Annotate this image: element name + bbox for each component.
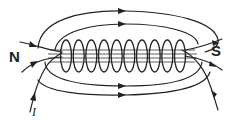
arrow-top-inner (118, 21, 126, 27)
coil-turn (111, 40, 122, 72)
coil-turn (99, 40, 110, 72)
north-pole-label: N (9, 48, 20, 65)
coil-turn (175, 40, 186, 72)
current-label: I (31, 105, 37, 119)
arrow-left-lower (30, 61, 38, 68)
coil-turn (162, 40, 173, 72)
field-line-top-inner (55, 24, 198, 50)
coil-turn (61, 40, 72, 72)
coil-turn (124, 40, 135, 72)
field-line-bottom-outer (38, 72, 210, 95)
arrow-left-upper (29, 41, 37, 47)
current-arrow-in (30, 92, 36, 101)
field-line-bottom-inner (45, 62, 202, 86)
arrow-right-lower (209, 61, 217, 67)
field-line-top-outer (38, 11, 218, 52)
arrow-bottom-inner (118, 83, 126, 89)
coil-turn (149, 40, 160, 72)
arrow-top-outer (118, 8, 126, 14)
field-line-left-lower (22, 57, 62, 72)
solenoid-coil (61, 40, 186, 72)
coil-turn (86, 40, 97, 72)
current-arrow-out (211, 90, 217, 98)
solenoid-diagram: N S I (0, 0, 240, 120)
coil-turn (137, 40, 148, 72)
south-pole-label: S (211, 42, 221, 59)
arrow-bottom-outer (118, 92, 126, 98)
coil-turn (73, 40, 84, 72)
